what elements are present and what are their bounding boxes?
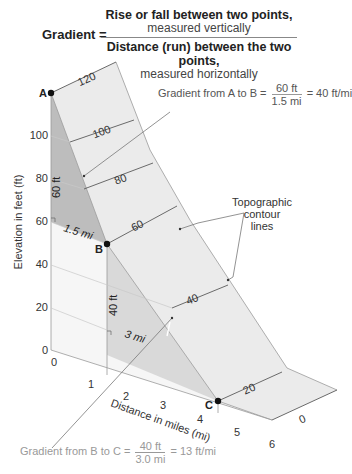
bc-rise-label: 40 ft xyxy=(107,295,119,316)
point-a-label: A xyxy=(39,87,47,99)
gradient-bc-result: = 13 ft/mi xyxy=(170,445,216,457)
svg-text:5: 5 xyxy=(234,426,240,438)
gradient-ab-result: = 40 ft/mi xyxy=(307,87,352,99)
gradient-ab-fraction: 60 ft 1.5 mi xyxy=(272,82,302,107)
svg-text:80: 80 xyxy=(36,172,48,184)
svg-text:3: 3 xyxy=(160,399,166,411)
gradient-ab-note: Gradient from A to B = 60 ft 1.5 mi = 40… xyxy=(158,82,352,107)
svg-text:60: 60 xyxy=(36,215,48,227)
y-axis-title: Elevation in feet (ft) xyxy=(12,175,24,270)
gradient-ab-denominator: 1.5 mi xyxy=(272,95,302,107)
svg-text:4: 4 xyxy=(197,413,203,425)
svg-text:0: 0 xyxy=(51,356,57,368)
gradient-bc-fraction: 40 ft 3.0 mi xyxy=(135,440,165,465)
svg-text:1: 1 xyxy=(88,378,94,390)
contour-callout: Topographic contour lines xyxy=(222,196,302,232)
svg-text:40: 40 xyxy=(36,258,48,270)
gradient-bc-prefix: Gradient from B to C = xyxy=(20,445,130,457)
gradient-ab-prefix: Gradient from A to B = xyxy=(158,87,267,99)
gradient-bc-note: Gradient from B to C = 40 ft 3.0 mi = 13… xyxy=(20,440,216,465)
gradient-ab-numerator: 60 ft xyxy=(272,82,302,94)
svg-text:100: 100 xyxy=(30,129,48,141)
svg-text:6: 6 xyxy=(269,438,275,450)
gradient-bc-numerator: 40 ft xyxy=(135,440,165,452)
point-c xyxy=(215,398,221,404)
contour-label-0: 0 xyxy=(297,412,307,425)
point-b-label: B xyxy=(95,243,103,255)
svg-text:0: 0 xyxy=(42,344,48,356)
point-a xyxy=(48,90,54,96)
ab-rise-label: 60 ft xyxy=(50,177,62,198)
svg-text:20: 20 xyxy=(36,301,48,313)
point-c-label: C xyxy=(205,399,213,411)
gradient-bc-denominator: 3.0 mi xyxy=(135,453,165,465)
y-axis-ticks: 0 20 40 60 80 100 xyxy=(30,129,48,356)
point-b xyxy=(104,241,110,247)
